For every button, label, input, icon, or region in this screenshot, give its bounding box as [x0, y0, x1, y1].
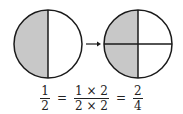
fraction-equation: 1 2 = 1 × 2 2 × 2 = 2 4 [0, 83, 183, 113]
arrow-right-icon [86, 42, 101, 47]
left-circle-halves [14, 10, 82, 78]
middle-numerator: 1 × 2 [74, 85, 109, 99]
left-shaded-half [14, 10, 48, 78]
lhs-numerator: 1 [40, 85, 50, 99]
rhs-denominator: 4 [134, 99, 142, 112]
equals-sign: = [57, 91, 67, 105]
right-circle-quarters [104, 10, 172, 78]
lhs-denominator: 2 [41, 99, 49, 112]
fraction-rhs: 2 4 [133, 85, 143, 112]
middle-denominator: 2 × 2 [75, 99, 108, 112]
fraction-middle: 1 × 2 2 × 2 [74, 85, 109, 112]
equals-sign: = [116, 91, 126, 105]
rhs-numerator: 2 [133, 85, 143, 99]
fraction-lhs: 1 2 [40, 85, 50, 112]
